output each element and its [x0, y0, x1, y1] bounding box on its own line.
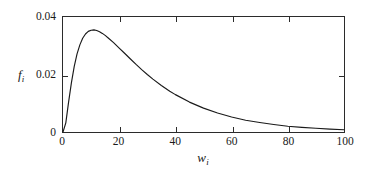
- x-tick-label-100: 100: [336, 136, 353, 148]
- x-axis-title: wi: [197, 150, 208, 167]
- x-axis-title-symbol: w: [197, 150, 206, 165]
- x-tick-label-20: 20: [113, 136, 125, 148]
- x-axis-title-subscript: i: [206, 157, 209, 167]
- chart-figure: fi wi 0 0.02 0.04 0 20 40 60 80 100: [0, 0, 368, 173]
- y-tick-label-0.02: 0.02: [6, 69, 56, 81]
- x-tick-label-40: 40: [169, 136, 181, 148]
- x-tick-label-0: 0: [59, 136, 65, 148]
- x-tick-label-80: 80: [283, 136, 295, 148]
- y-tick-label-0: 0: [6, 127, 56, 139]
- plot-area: [62, 16, 345, 133]
- y-tick-label-0.04: 0.04: [6, 11, 56, 23]
- series-line-fi: [63, 30, 344, 132]
- data-curve-layer: [63, 17, 344, 132]
- x-tick-label-60: 60: [226, 136, 238, 148]
